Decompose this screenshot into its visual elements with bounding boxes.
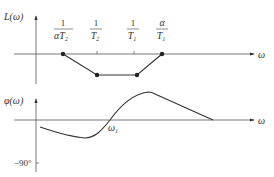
svg-text:1: 1 <box>61 18 66 28</box>
break-point <box>160 52 164 56</box>
phase-x-label: ω <box>258 115 265 126</box>
bode-diagram: L(ω) ω 1 αT2 1 T2 1 T1 α T1 <box>0 0 274 177</box>
magnitude-curve <box>63 54 162 75</box>
svg-text:α: α <box>159 17 165 28</box>
phase-curve <box>40 92 213 138</box>
svg-text:1: 1 <box>94 18 99 28</box>
svg-text:T1: T1 <box>157 30 166 42</box>
break-label-1-over-T1: 1 T1 <box>127 18 139 42</box>
break-label-1-over-T2: 1 T2 <box>90 18 102 42</box>
magnitude-x-label: ω <box>258 49 265 60</box>
break-label-alpha-over-T1: α T1 <box>156 17 168 42</box>
break-point <box>61 52 65 56</box>
magnitude-y-label: L(ω) <box>3 11 24 23</box>
svg-text:T2: T2 <box>91 30 100 42</box>
svg-text:1: 1 <box>131 18 136 28</box>
break-point <box>135 73 139 77</box>
phase-y-label: φ(ω) <box>4 95 24 107</box>
magnitude-plot: L(ω) ω 1 αT2 1 T2 1 T1 α T1 <box>3 11 265 84</box>
svg-text:T1: T1 <box>128 30 137 42</box>
break-point <box>95 73 99 77</box>
svg-text:αT2: αT2 <box>54 30 68 42</box>
minus-90-label: −90° <box>14 158 32 168</box>
break-label-1-over-alpha-T2: 1 αT2 <box>54 18 73 42</box>
crossing-frequency-label: ω1 <box>108 122 118 134</box>
phase-plot: φ(ω) ω −90° ω1 <box>4 92 265 172</box>
